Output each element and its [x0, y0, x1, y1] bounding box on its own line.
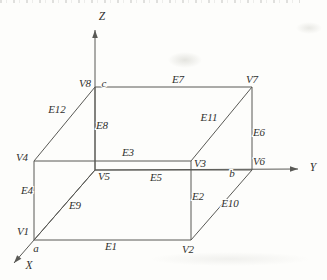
figure-canvas: E1E2E3E4E5E6E7E8E9E10E11E12XYZV1V2V3V4V5…: [0, 0, 327, 280]
intercept-label-a: a: [33, 242, 39, 254]
intercept-label-b: b: [229, 167, 235, 179]
edge-label-E3: E3: [121, 146, 135, 158]
cuboid-diagram: E1E2E3E4E5E6E7E8E9E10E11E12XYZV1V2V3V4V5…: [0, 0, 327, 280]
edge-label-E10: E10: [220, 197, 239, 209]
axis-arrowhead-z-axis: [92, 30, 98, 38]
vertex-label-V8: V8: [79, 77, 92, 89]
axis-label-z-axis: Z: [99, 10, 106, 22]
edge-label-E7: E7: [171, 73, 185, 85]
edge-label-E6: E6: [252, 126, 266, 138]
axis-line-y-axis: [95, 169, 298, 170]
axis-arrowhead-y-axis: [290, 166, 298, 172]
vertex-label-V5: V5: [98, 170, 111, 182]
vertex-label-V3: V3: [194, 157, 207, 169]
edge-label-E12: E12: [47, 103, 66, 115]
edge-E11: [191, 87, 252, 161]
axis-label-x-axis: X: [24, 259, 33, 271]
axis-label-y-axis: Y: [310, 161, 318, 173]
edge-label-E1: E1: [104, 240, 117, 252]
edge-label-E9: E9: [68, 199, 82, 211]
vertex-label-V7: V7: [246, 73, 259, 85]
edge-label-E4: E4: [20, 184, 34, 196]
vertex-label-V4: V4: [16, 151, 29, 163]
edge-label-E5: E5: [149, 171, 163, 183]
edge-E12: [34, 87, 95, 161]
vertex-label-V6: V6: [253, 155, 266, 167]
edge-label-E8: E8: [95, 119, 109, 131]
edge-label-E2: E2: [191, 190, 205, 202]
vertex-label-V1: V1: [17, 225, 29, 237]
intercept-label-c: c: [102, 77, 107, 89]
vertex-label-V2: V2: [182, 243, 195, 255]
edge-label-E11: E11: [200, 111, 218, 123]
